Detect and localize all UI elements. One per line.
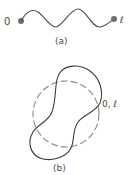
figure-a: 0 ℓ (a) bbox=[4, 9, 124, 46]
reference-circle bbox=[33, 81, 99, 147]
figure-b: 0, ℓ (b) bbox=[30, 66, 117, 173]
wavy-string bbox=[21, 9, 114, 27]
end-endpoint bbox=[111, 16, 117, 22]
caption-a: (a) bbox=[55, 36, 68, 46]
deformed-loop bbox=[30, 66, 102, 159]
start-label: 0 bbox=[4, 16, 10, 27]
diagram-canvas: 0 ℓ (a) 0, ℓ (b) bbox=[0, 0, 131, 175]
caption-b: (b) bbox=[53, 163, 66, 173]
end-label: ℓ bbox=[119, 15, 124, 25]
junction-label: 0, ℓ bbox=[102, 99, 117, 109]
